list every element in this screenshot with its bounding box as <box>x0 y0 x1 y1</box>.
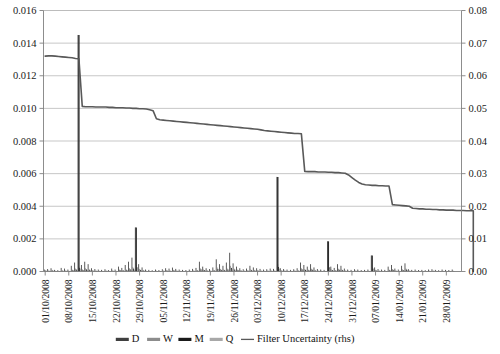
bar-D-98 <box>374 267 375 271</box>
right-tick-label-2: 0.02 <box>469 201 487 212</box>
bar-W-55 <box>230 266 231 272</box>
legend-swatch-M <box>178 338 191 341</box>
x-tick-label-3: 22/10/2008 <box>112 279 122 323</box>
bar-D-58 <box>239 268 240 271</box>
legend-swatch-W <box>147 338 160 341</box>
bar-D-63 <box>256 268 257 271</box>
legend-label-M: M <box>194 333 204 344</box>
bar-D-46 <box>199 262 200 272</box>
bar-M-55 <box>231 268 232 272</box>
bar-D-55 <box>229 253 230 272</box>
x-tick-label-9: 03/12/2008 <box>253 279 263 323</box>
left-value-axis: 0.0000.0020.0040.0060.0080.0100.0120.014… <box>13 5 44 277</box>
bar-D-88 <box>341 266 342 272</box>
legend-swatch-D <box>116 338 129 341</box>
bar-D-45 <box>196 268 197 272</box>
bar-D-2 <box>51 268 52 271</box>
date-category-axis: 01/10/200808/10/200815/10/200822/10/2008… <box>41 272 452 323</box>
bar-D-76 <box>300 263 301 272</box>
x-tick-label-7: 19/11/2008 <box>206 279 216 322</box>
x-tick-label-11: 17/12/2008 <box>300 279 310 323</box>
right-tick-label-5: 0.05 <box>469 103 487 114</box>
bar-D-107 <box>405 263 406 271</box>
bar-D-23 <box>121 268 122 272</box>
bar-D-8 <box>71 266 72 272</box>
chart-container: 0.0000.0020.0040.0060.0080.0100.0120.014… <box>0 0 500 354</box>
left-tick-label-7: 0.014 <box>13 38 37 49</box>
bar-D-13 <box>88 264 89 271</box>
bar-W-46 <box>200 268 201 271</box>
left-tick-label-8: 0.016 <box>13 5 37 16</box>
right-tick-label-4: 0.04 <box>469 136 488 147</box>
left-tick-label-4: 0.008 <box>13 136 37 147</box>
gridlines <box>44 11 462 272</box>
x-tick-label-13: 31/12/2008 <box>348 279 358 323</box>
legend-label-W: W <box>163 333 173 344</box>
left-tick-label-5: 0.010 <box>13 103 37 114</box>
bar-D-28 <box>138 264 139 271</box>
right-tick-label-8: 0.08 <box>469 5 487 16</box>
bar-D-61 <box>250 266 251 272</box>
x-tick-label-5: 05/11/2008 <box>159 279 169 322</box>
x-tick-label-1: 08/10/2008 <box>64 279 74 323</box>
legend-label-Q: Q <box>226 333 234 344</box>
bar-D-80 <box>314 267 315 271</box>
bar-D-77 <box>303 265 304 272</box>
x-tick-label-8: 26/11/2008 <box>230 279 240 322</box>
bar-series-layer <box>44 35 455 272</box>
right-tick-label-3: 0.03 <box>469 168 487 179</box>
bar-D-103 <box>391 265 392 272</box>
bar-D-57 <box>236 267 237 272</box>
bar-D-106 <box>401 266 402 272</box>
bar-D-86 <box>334 268 335 272</box>
bar-D-87 <box>337 264 338 271</box>
bar-D-12 <box>84 262 85 272</box>
bar-D-47 <box>202 267 203 272</box>
right-value-axis: 0.000.010.020.030.040.050.060.070.08 <box>462 5 488 277</box>
legend-label-Filter: Filter Uncertainty (rhs) <box>257 333 355 345</box>
x-tick-label-2: 15/10/2008 <box>88 279 98 323</box>
bar-D-102 <box>388 267 389 272</box>
chart-legend: DWMQFilter Uncertainty (rhs) <box>116 333 355 345</box>
filter-uncertainty-chart: 0.0000.0020.0040.0060.0080.0100.0120.014… <box>0 0 500 354</box>
x-tick-label-0: 01/10/2008 <box>41 279 51 323</box>
bar-D-14 <box>91 268 92 271</box>
bar-W-76 <box>301 268 302 271</box>
bar-W-26 <box>132 267 133 272</box>
bar-D-85 <box>330 267 331 272</box>
bar-D-51 <box>216 259 217 271</box>
x-tick-label-10: 10/12/2008 <box>277 279 287 323</box>
bar-W-12 <box>85 268 86 271</box>
bar-D-79 <box>310 264 311 271</box>
left-tick-label-6: 0.012 <box>13 70 37 81</box>
bar-D-70 <box>280 268 281 271</box>
right-tick-label-7: 0.07 <box>469 38 487 49</box>
x-tick-label-6: 12/11/2008 <box>182 279 192 322</box>
bar-D-52 <box>219 264 220 271</box>
bar-D-56 <box>233 263 234 271</box>
bar-D-78 <box>307 267 308 272</box>
right-tick-label-6: 0.06 <box>469 70 487 81</box>
bar-D-50 <box>212 267 213 271</box>
bar-D-5 <box>61 268 62 272</box>
bar-D-22 <box>118 267 119 272</box>
bar-D-29 <box>142 267 143 271</box>
left-tick-label-0: 0.000 <box>13 266 37 277</box>
bar-W-107 <box>405 268 406 271</box>
bar-W-51 <box>217 267 218 271</box>
bar-D-11 <box>81 265 82 272</box>
legend-swatch-Q <box>210 338 223 341</box>
x-tick-label-16: 21/01/2009 <box>418 279 428 323</box>
bar-D-38 <box>172 268 173 272</box>
bar-W-25 <box>129 268 130 271</box>
x-tick-label-4: 29/10/2008 <box>135 279 145 323</box>
left-tick-label-2: 0.004 <box>13 201 37 212</box>
legend-label-D: D <box>132 333 140 344</box>
left-tick-label-3: 0.006 <box>13 168 37 179</box>
bar-D-24 <box>125 265 126 272</box>
right-tick-label-0: 0.00 <box>469 266 487 277</box>
x-tick-label-12: 24/12/2008 <box>324 279 334 323</box>
bar-D-54 <box>226 263 227 272</box>
bar-D-53 <box>223 266 224 272</box>
x-tick-label-14: 07/01/2009 <box>371 279 381 323</box>
